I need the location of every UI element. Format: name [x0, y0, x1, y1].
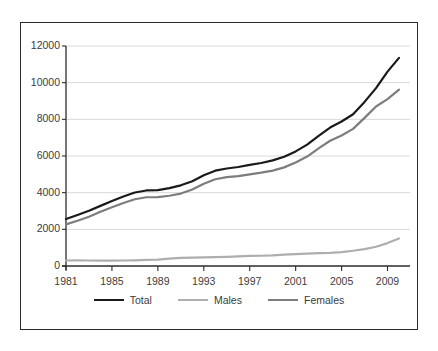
y-axis-label: 4000: [6, 186, 60, 198]
series-line-males: [66, 239, 399, 261]
legend-swatch-icon: [178, 299, 208, 301]
series-line-total: [66, 58, 399, 219]
legend-label: Males: [214, 294, 242, 306]
legend-item-males[interactable]: Males: [178, 294, 242, 306]
legend-item-females[interactable]: Females: [268, 294, 344, 306]
x-axis-label: 2001: [271, 275, 321, 287]
x-axis-label: 2009: [363, 275, 413, 287]
x-axis-label: 1981: [41, 275, 91, 287]
y-axis-label: 2000: [6, 222, 60, 234]
chart-figure: 020004000600080001000012000 198119851989…: [0, 0, 438, 351]
y-axis-label: 8000: [6, 112, 60, 124]
y-axis-label: 12000: [6, 39, 60, 51]
x-axis-label: 1989: [133, 275, 183, 287]
chart-legend: TotalMalesFemales: [20, 294, 418, 306]
legend-swatch-icon: [94, 299, 124, 301]
y-axis-label: 0: [6, 259, 60, 271]
legend-item-total[interactable]: Total: [94, 294, 152, 306]
x-axis-label: 1985: [87, 275, 137, 287]
series-line-females: [66, 90, 399, 225]
legend-label: Total: [130, 294, 152, 306]
y-axis-label: 6000: [6, 149, 60, 161]
x-axis-label: 1993: [179, 275, 229, 287]
x-axis-label: 1997: [225, 275, 275, 287]
legend-label: Females: [304, 294, 344, 306]
x-axis-label: 2005: [317, 275, 367, 287]
y-axis-label: 10000: [6, 76, 60, 88]
legend-swatch-icon: [268, 299, 298, 301]
